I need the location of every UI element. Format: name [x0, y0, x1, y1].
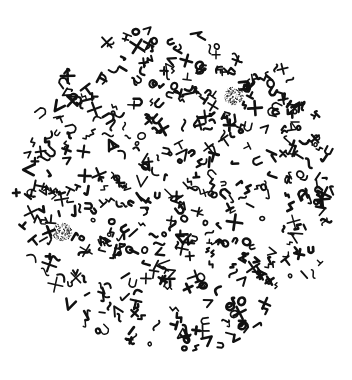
chromosome	[189, 149, 196, 155]
chromosome	[233, 237, 238, 243]
chromosome	[167, 39, 174, 45]
chromosome	[133, 289, 142, 295]
chromosome	[204, 297, 214, 307]
chromosome	[257, 272, 265, 280]
chromosome	[180, 215, 188, 223]
chromosome	[40, 220, 45, 225]
chromosome	[316, 147, 323, 151]
chromosome	[52, 256, 59, 261]
chromosome	[242, 237, 251, 246]
chromosome	[178, 98, 184, 102]
chromosome	[97, 198, 107, 208]
chromosome	[138, 223, 145, 227]
chromosome	[26, 252, 38, 262]
chromosome	[203, 220, 208, 225]
chromosome	[128, 101, 135, 109]
chromosome	[47, 239, 51, 244]
chromosome	[248, 101, 262, 115]
chromosome	[300, 139, 310, 145]
chromosome	[266, 79, 275, 89]
chromosome	[205, 44, 214, 54]
chromosome	[90, 128, 96, 136]
chromosome	[104, 282, 112, 288]
chromosome	[261, 123, 271, 133]
chromosome	[313, 142, 317, 146]
chromosome	[255, 184, 260, 190]
chromosome	[178, 159, 183, 163]
chromosome	[130, 40, 143, 53]
chromosome	[36, 146, 46, 156]
chromosome	[154, 239, 165, 249]
chromosome	[330, 186, 336, 195]
chromosome	[214, 285, 221, 295]
chromosome	[166, 55, 176, 65]
chromosome	[205, 228, 214, 237]
chromosome	[295, 170, 305, 179]
chromosome	[227, 215, 242, 230]
chromosome	[315, 173, 320, 180]
chromosome	[175, 313, 184, 323]
chromosome	[84, 186, 88, 195]
chromosome	[288, 273, 292, 278]
chromosome	[67, 199, 74, 202]
chromosome	[143, 25, 153, 35]
chromosome	[230, 263, 236, 269]
chromosome	[175, 205, 184, 215]
chromosome	[229, 133, 235, 138]
chromosome	[184, 284, 193, 293]
chromosome	[169, 307, 179, 312]
chromosome	[118, 149, 128, 159]
chromosome	[213, 43, 220, 50]
chromosome	[40, 237, 47, 241]
chromosome	[203, 125, 212, 134]
chromosome	[207, 169, 216, 178]
chromosome	[198, 33, 207, 40]
chromosome	[319, 209, 324, 215]
chromosome	[45, 147, 56, 158]
chromosome	[162, 189, 171, 198]
chromosome	[221, 181, 226, 186]
chromosome	[182, 346, 187, 350]
chromosome	[181, 55, 193, 67]
chromosome	[242, 143, 250, 152]
chromosome	[28, 235, 40, 247]
chromosome	[149, 232, 157, 238]
chromosome	[183, 73, 192, 80]
chromosome	[77, 146, 89, 158]
chromosome	[57, 272, 67, 282]
chromosome	[268, 247, 277, 256]
chromosome	[63, 299, 76, 312]
chromosome	[183, 93, 192, 95]
chromosome	[297, 126, 301, 130]
chromosome	[101, 184, 109, 192]
chromosome	[301, 271, 307, 278]
chromosome	[237, 274, 249, 286]
chromosome	[219, 188, 230, 199]
chromosome	[83, 320, 86, 327]
chromosome	[260, 217, 265, 221]
chromosome	[62, 146, 70, 154]
chromosome	[46, 254, 50, 259]
chromosome	[136, 176, 148, 188]
chromosome	[109, 219, 115, 224]
chromosome	[67, 89, 72, 91]
chromosome	[111, 172, 114, 178]
chromosome	[201, 318, 209, 325]
chromosome	[208, 190, 215, 196]
chromosome	[164, 174, 167, 180]
chromosome	[46, 131, 53, 141]
chromosome	[109, 228, 115, 237]
chromosome	[85, 293, 90, 296]
chromosome	[308, 269, 317, 278]
chromosome	[281, 226, 286, 232]
chromosome	[91, 209, 97, 215]
chromosome	[116, 232, 123, 241]
chromosome	[166, 92, 173, 98]
chromosome	[141, 273, 151, 283]
chromosome	[51, 100, 65, 114]
chromosome	[146, 198, 152, 204]
chromosome	[80, 275, 87, 282]
chromosome	[208, 261, 215, 268]
chromosome	[252, 157, 262, 166]
chromosome	[227, 115, 236, 126]
